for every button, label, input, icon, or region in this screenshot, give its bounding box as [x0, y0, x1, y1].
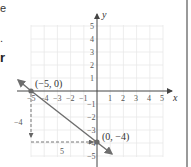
- point-label-0-neg4: (0, −4): [102, 131, 129, 143]
- point-0-neg4: [94, 139, 99, 144]
- svg-text:−1: −1: [87, 100, 96, 109]
- svg-text:3: 3: [134, 94, 138, 103]
- svg-text:2: 2: [90, 61, 94, 70]
- svg-text:−2: −2: [66, 94, 75, 103]
- svg-text:−2: −2: [87, 113, 96, 122]
- svg-text:1: 1: [90, 74, 94, 83]
- svg-text:4: 4: [90, 35, 94, 44]
- svg-text:2: 2: [121, 94, 125, 103]
- rise-label: −4: [14, 118, 23, 127]
- right-border-divider: [186, 0, 188, 167]
- svg-text:1: 1: [108, 94, 112, 103]
- point-neg5-0: [28, 88, 33, 93]
- svg-text:5: 5: [160, 94, 164, 103]
- svg-text:−5: −5: [87, 152, 96, 161]
- run-label: 5: [60, 147, 64, 156]
- graph-line: [18, 80, 30, 90]
- svg-text:−3: −3: [53, 94, 62, 103]
- svg-text:5: 5: [90, 22, 94, 31]
- svg-text:−3: −3: [87, 126, 96, 135]
- y-axis-label: y: [101, 9, 107, 20]
- x-axis-label: x: [172, 92, 178, 103]
- coordinate-graph: x y −5 −4 −3 −2 −1 1 2 3 4 5 5 4 3 2 1 −…: [0, 0, 191, 167]
- svg-text:4: 4: [147, 94, 151, 103]
- svg-text:3: 3: [90, 48, 94, 57]
- point-label-neg5-0: (−5, 0): [35, 78, 62, 90]
